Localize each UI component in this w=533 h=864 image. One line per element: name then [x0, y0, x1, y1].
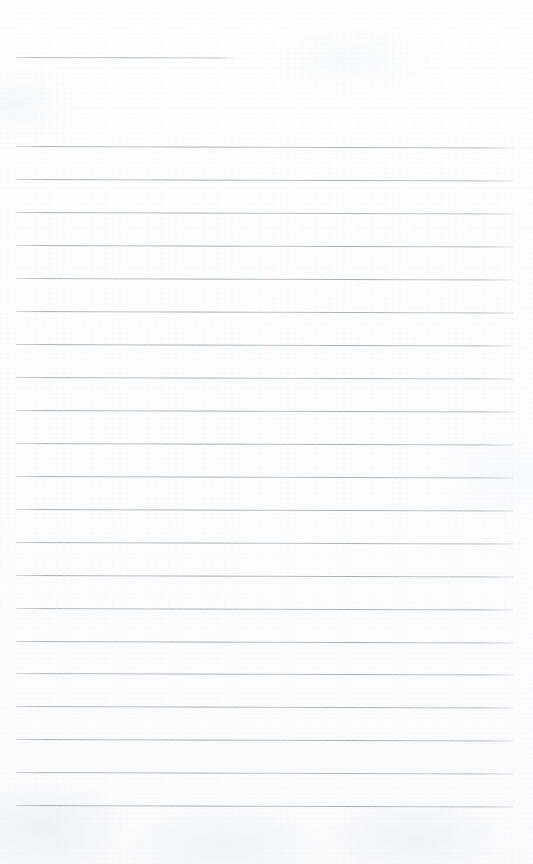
ruled-lines-group [0, 0, 533, 864]
ruled-line [16, 179, 513, 181]
ruled-line [16, 706, 513, 708]
ruled-line [16, 673, 513, 675]
ruled-line [16, 641, 513, 643]
ruled-line [16, 278, 513, 280]
ruled-line [16, 212, 513, 214]
ruled-line [16, 476, 513, 478]
ruled-line [16, 575, 513, 577]
ruled-line [16, 377, 513, 379]
ruled-line [16, 443, 513, 445]
ruled-line [16, 344, 513, 346]
ruled-line [16, 245, 513, 247]
ruled-line [16, 608, 513, 610]
ruled-line [16, 739, 513, 741]
ruled-line [16, 509, 513, 511]
ruled-line [16, 772, 513, 774]
ruled-line [16, 805, 513, 807]
ruled-line [16, 542, 513, 544]
ruled-line [16, 410, 513, 412]
scanned-page [0, 0, 533, 864]
ruled-line [16, 311, 513, 313]
ruled-line [16, 146, 513, 148]
ruled-line-short [16, 57, 234, 59]
